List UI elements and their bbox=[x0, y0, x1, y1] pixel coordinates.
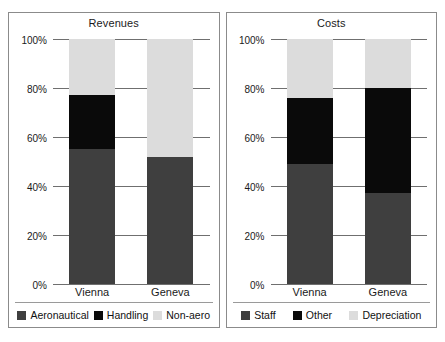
bar-segment-other bbox=[287, 98, 333, 164]
legend-item-staff[interactable]: Staff bbox=[241, 309, 275, 321]
category-label-vienna: Vienna bbox=[287, 286, 333, 298]
legend-label-staff: Staff bbox=[254, 309, 275, 321]
chart-panel-revenues: Revenues 100% 80% 60% 40% 20% bbox=[8, 12, 220, 328]
bar-segment-non-aero bbox=[147, 39, 193, 157]
legend-swatch-icon bbox=[153, 311, 162, 320]
legend-item-depreciation[interactable]: Depreciation bbox=[349, 309, 421, 321]
category-label-geneva: Geneva bbox=[365, 286, 411, 298]
legend-swatch-icon bbox=[293, 311, 302, 320]
ytick-label-40: 40% bbox=[244, 182, 264, 193]
bar-segment-handling bbox=[69, 95, 115, 149]
ytick-label-0: 0% bbox=[33, 280, 47, 291]
plot-area-revenues: 100% 80% 60% 40% 20% 0% bbox=[53, 39, 210, 284]
ytick-label-0: 0% bbox=[250, 280, 264, 291]
ytick-label-20: 20% bbox=[27, 231, 47, 242]
bar-geneva-revenues bbox=[147, 39, 193, 284]
legend-label-depreciation: Depreciation bbox=[362, 309, 421, 321]
legend-label-other: Other bbox=[306, 309, 332, 321]
legend-costs: Staff Other Depreciation bbox=[233, 302, 431, 321]
bar-segment-staff bbox=[287, 164, 333, 284]
legend-item-aeronautical[interactable]: Aeronautical bbox=[17, 309, 88, 321]
bar-segment-non-aero bbox=[69, 39, 115, 95]
category-label-geneva: Geneva bbox=[147, 286, 193, 298]
ytick-label-20: 20% bbox=[244, 231, 264, 242]
bar-segment-aeronautical bbox=[147, 157, 193, 284]
ytick-label-80: 80% bbox=[244, 84, 264, 95]
stacked-bar-chart-figure: Revenues 100% 80% 60% 40% 20% bbox=[0, 0, 445, 342]
panel-title-revenues: Revenues bbox=[9, 17, 219, 29]
bar-vienna-costs bbox=[287, 39, 333, 284]
category-labels-revenues: Vienna Geneva bbox=[53, 286, 210, 298]
legend-revenues: Aeronautical Handling Non-aero bbox=[15, 302, 213, 321]
ytick-label-80: 80% bbox=[27, 84, 47, 95]
category-labels-costs: Vienna Geneva bbox=[271, 286, 428, 298]
bar-geneva-costs bbox=[365, 39, 411, 284]
ytick-label-100: 100% bbox=[21, 35, 47, 46]
bar-segment-depreciation bbox=[287, 39, 333, 98]
legend-swatch-icon bbox=[17, 311, 26, 320]
chart-panel-costs: Costs 100% 80% 60% 40% 20% 0 bbox=[226, 12, 438, 328]
bars-revenues bbox=[53, 39, 210, 284]
bar-segment-staff bbox=[365, 193, 411, 284]
ytick-label-60: 60% bbox=[244, 133, 264, 144]
bar-segment-aeronautical bbox=[69, 149, 115, 284]
plot-area-costs: 100% 80% 60% 40% 20% 0% bbox=[271, 39, 428, 284]
legend-label-non-aero: Non-aero bbox=[166, 309, 210, 321]
panel-title-costs: Costs bbox=[227, 17, 437, 29]
legend-item-non-aero[interactable]: Non-aero bbox=[153, 309, 210, 321]
ytick-label-40: 40% bbox=[27, 182, 47, 193]
legend-swatch-icon bbox=[94, 311, 103, 320]
ytick-label-60: 60% bbox=[27, 133, 47, 144]
bars-costs bbox=[271, 39, 428, 284]
legend-label-aeronautical: Aeronautical bbox=[30, 309, 88, 321]
category-label-vienna: Vienna bbox=[69, 286, 115, 298]
bar-vienna-revenues bbox=[69, 39, 115, 284]
bar-segment-other bbox=[365, 88, 411, 193]
legend-item-handling[interactable]: Handling bbox=[94, 309, 148, 321]
legend-item-other[interactable]: Other bbox=[293, 309, 332, 321]
legend-swatch-icon bbox=[349, 311, 358, 320]
legend-label-handling: Handling bbox=[107, 309, 148, 321]
ytick-label-100: 100% bbox=[239, 35, 265, 46]
bar-segment-depreciation bbox=[365, 39, 411, 88]
legend-swatch-icon bbox=[241, 311, 250, 320]
